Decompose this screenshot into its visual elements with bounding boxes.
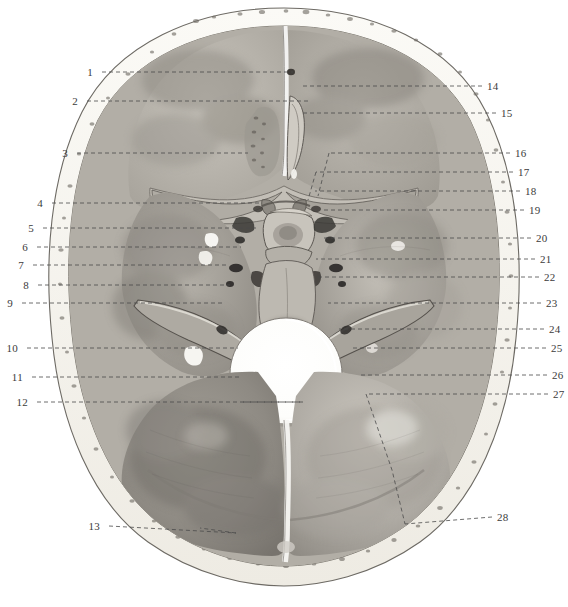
foramen-ovale-left (229, 264, 243, 272)
foramen-rotundum-left (235, 236, 245, 243)
foramen-ovale-right (329, 264, 343, 272)
label-number-10: 10 (6, 343, 18, 354)
label-number-12: 12 (16, 397, 28, 408)
label-number-4: 4 (37, 198, 43, 209)
label-number-5: 5 (28, 223, 34, 234)
label-number-2: 2 (72, 96, 78, 107)
label-number-24: 24 (549, 324, 561, 335)
label-number-25: 25 (551, 343, 563, 354)
optic-canal-left (253, 206, 263, 212)
label-number-14: 14 (487, 81, 499, 92)
foramen-spinosum-left (226, 281, 234, 287)
label-number-23: 23 (546, 298, 558, 309)
label-number-21: 21 (540, 254, 552, 265)
label-number-17: 17 (518, 167, 530, 178)
cranial-base-illustration (0, 0, 568, 607)
label-number-11: 11 (12, 372, 23, 383)
label-number-22: 22 (544, 272, 556, 283)
label-number-1: 1 (87, 67, 93, 78)
label-number-7: 7 (18, 260, 24, 271)
label-number-3: 3 (62, 148, 68, 159)
label-number-8: 8 (23, 280, 29, 291)
label-number-9: 9 (7, 298, 13, 309)
label-number-6: 6 (22, 242, 28, 253)
foramen-rotundum-right (325, 236, 335, 243)
internal-occipital-protuberance (277, 541, 295, 553)
label-number-20: 20 (536, 233, 548, 244)
label-number-19: 19 (529, 205, 541, 216)
label-number-26: 26 (552, 370, 564, 381)
label-number-16: 16 (515, 148, 527, 159)
label-number-27: 27 (553, 389, 565, 400)
label-number-15: 15 (501, 108, 513, 119)
label-number-28: 28 (497, 512, 509, 523)
label-number-18: 18 (525, 186, 537, 197)
foramen-spinosum-right (338, 281, 346, 287)
label-number-13: 13 (88, 521, 100, 532)
optic-canal-right (311, 206, 321, 212)
